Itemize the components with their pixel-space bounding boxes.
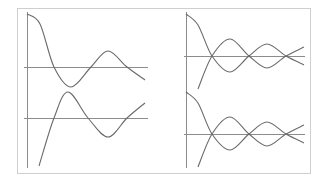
- series-lower: [198, 117, 304, 167]
- figure: [0, 0, 326, 181]
- series-curve-1: [27, 14, 145, 87]
- panel-left-top: [24, 12, 148, 168]
- series-curve-2: [39, 92, 145, 166]
- series-upper: [186, 92, 304, 150]
- figure-frame: [18, 9, 311, 174]
- panel-right-bottom: [184, 92, 305, 167]
- panel-left-bottom: [24, 92, 148, 166]
- series-lower: [198, 39, 304, 89]
- line-chart-figure: [0, 0, 326, 181]
- panel-right-top: [184, 12, 305, 168]
- series-upper: [186, 14, 304, 72]
